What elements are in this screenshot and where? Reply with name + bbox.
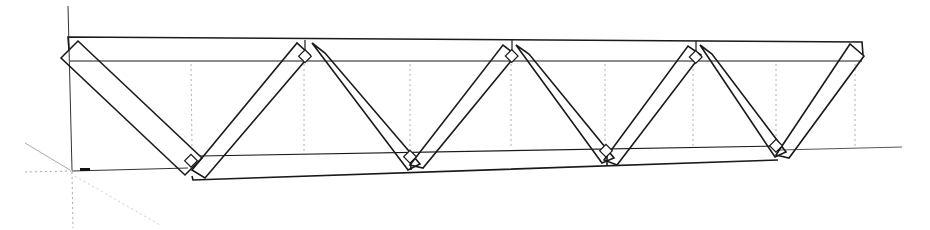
joint-markers bbox=[185, 50, 783, 167]
top-chord bbox=[68, 37, 863, 61]
truss-drawing bbox=[0, 0, 930, 230]
bottom-chord bbox=[192, 146, 780, 180]
